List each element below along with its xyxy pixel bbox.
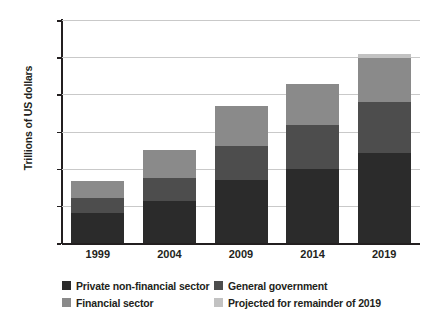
legend-item-private-non-financial-sector: Private non-financial sector <box>62 280 214 292</box>
bar-2014 <box>286 84 339 243</box>
bar-1999 <box>71 181 124 243</box>
y-tick-mark-150 <box>57 132 61 134</box>
y-tick-mark-200 <box>57 94 61 96</box>
bar-segment-1999-financial-sector <box>71 181 124 199</box>
bar-2019 <box>358 54 411 243</box>
bar-segment-2019-financial-sector <box>358 58 411 102</box>
y-tick-mark-100 <box>57 169 61 171</box>
bar-segment-2004-general-government <box>143 178 196 201</box>
y-tick-mark-0 <box>57 243 61 245</box>
bar-segment-2009-general-government <box>215 146 268 180</box>
x-tick-label-2004: 2004 <box>134 248 204 260</box>
chart-legend: Private non-financial sectorGeneral gove… <box>62 277 432 311</box>
bar-segment-2004-private-non-financial-sector <box>143 201 196 243</box>
bar-segment-2004-financial-sector <box>143 150 196 178</box>
bar-segment-2019-private-non-financial-sector <box>358 153 411 243</box>
y-tick-mark-50 <box>57 206 61 208</box>
legend-swatch-icon <box>214 281 223 290</box>
bar-segment-2009-financial-sector <box>215 106 268 146</box>
legend-label: Financial sector <box>76 297 154 309</box>
legend-item-financial-sector: Financial sector <box>62 297 214 309</box>
bar-segment-2014-general-government <box>286 125 339 170</box>
bar-segment-2019-general-government <box>358 102 411 153</box>
legend-swatch-icon <box>62 298 71 307</box>
y-tick-mark-300 <box>57 20 61 22</box>
grid-line-300 <box>62 20 420 21</box>
bar-segment-2014-financial-sector <box>286 84 339 125</box>
legend-label: Private non-financial sector <box>76 280 210 292</box>
x-tick-label-1999: 1999 <box>63 248 133 260</box>
bar-2004 <box>143 150 196 243</box>
x-tick-label-2019: 2019 <box>349 248 419 260</box>
legend-label: General government <box>228 280 327 292</box>
y-axis-title: Trillions of US dollars <box>22 28 34 208</box>
bar-segment-1999-private-non-financial-sector <box>71 213 124 243</box>
legend-swatch-icon <box>214 298 223 307</box>
grid-line-0 <box>62 243 420 245</box>
legend-item-projected-for-remainder-of-2019: Projected for remainder of 2019 <box>214 297 432 309</box>
plot-area <box>62 20 420 243</box>
legend-swatch-icon <box>62 281 71 290</box>
x-tick-label-2009: 2009 <box>206 248 276 260</box>
legend-item-general-government: General government <box>214 280 432 292</box>
x-tick-label-2014: 2014 <box>278 248 348 260</box>
stacked-bar-chart: Trillions of US dollars 0501001502002503… <box>0 0 442 319</box>
bar-segment-2014-private-non-financial-sector <box>286 169 339 243</box>
legend-label: Projected for remainder of 2019 <box>228 297 381 309</box>
y-tick-mark-250 <box>57 57 61 59</box>
bar-segment-1999-general-government <box>71 198 124 213</box>
bar-2009 <box>215 106 268 243</box>
bar-segment-2009-private-non-financial-sector <box>215 180 268 243</box>
